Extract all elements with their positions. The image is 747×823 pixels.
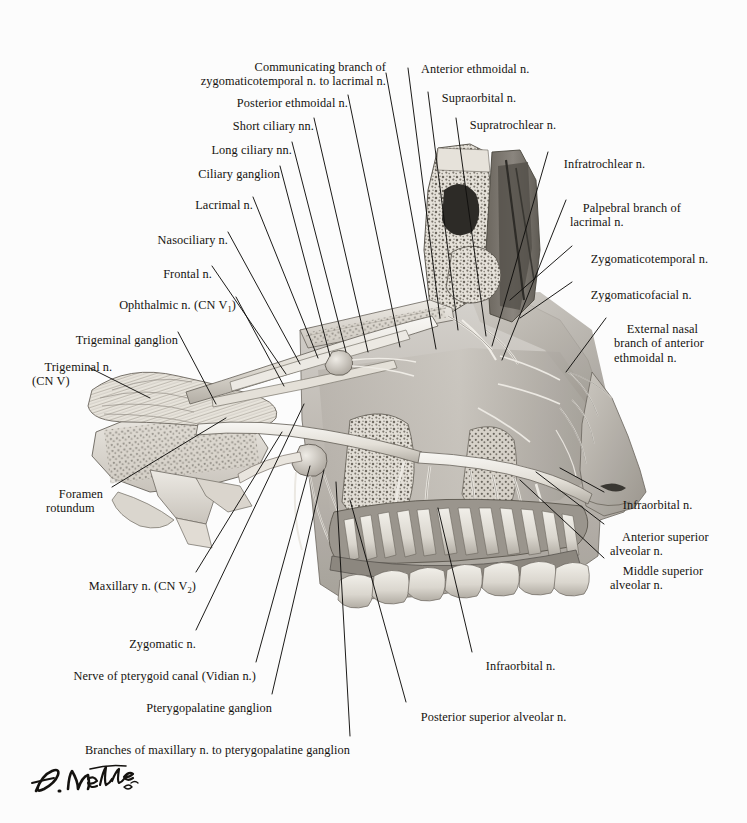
label-external-nasal-branch: External nasal branch of anterior ethmoi… bbox=[614, 308, 704, 379]
label-foramen-rotundum: Foramen rotundum bbox=[46, 473, 103, 530]
label-trigeminal-nerve: Trigeminal n. (CN V) bbox=[32, 346, 112, 403]
label-pterygopalatine-ganglion: Pterygopalatine ganglion bbox=[0, 687, 272, 730]
label-supratrochlear: Supratrochlear n. bbox=[457, 104, 556, 147]
label-infratrochlear: Infratrochlear n. bbox=[551, 143, 645, 186]
artist-signature: F. Netter M.D. bbox=[28, 757, 148, 803]
label-palpebral-branch: Palpebral branch of lacrimal n. bbox=[570, 187, 681, 244]
label-maxillary: Maxillary n. (CN V2) bbox=[0, 565, 196, 608]
label-middle-superior-alveolar: Middle superior alveolar n. bbox=[610, 550, 703, 607]
label-posterior-superior-alveolar: Posterior superior alveolar n. bbox=[408, 696, 566, 739]
anatomical-figure: Communicating branch of zygomaticotempor… bbox=[0, 0, 747, 823]
label-infraorbital-lower: Infraorbital n. bbox=[473, 645, 556, 688]
